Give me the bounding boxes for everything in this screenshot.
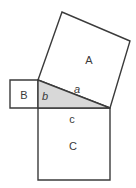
square-c-label: C [69,141,77,152]
square-b-label: B [20,90,27,101]
square-a-label: A [85,55,92,66]
side-b-label: b [42,91,48,102]
side-a-label: a [74,84,80,95]
side-c-label: c [69,114,75,125]
pythagorean-figure: A B C a b c [0,0,136,188]
